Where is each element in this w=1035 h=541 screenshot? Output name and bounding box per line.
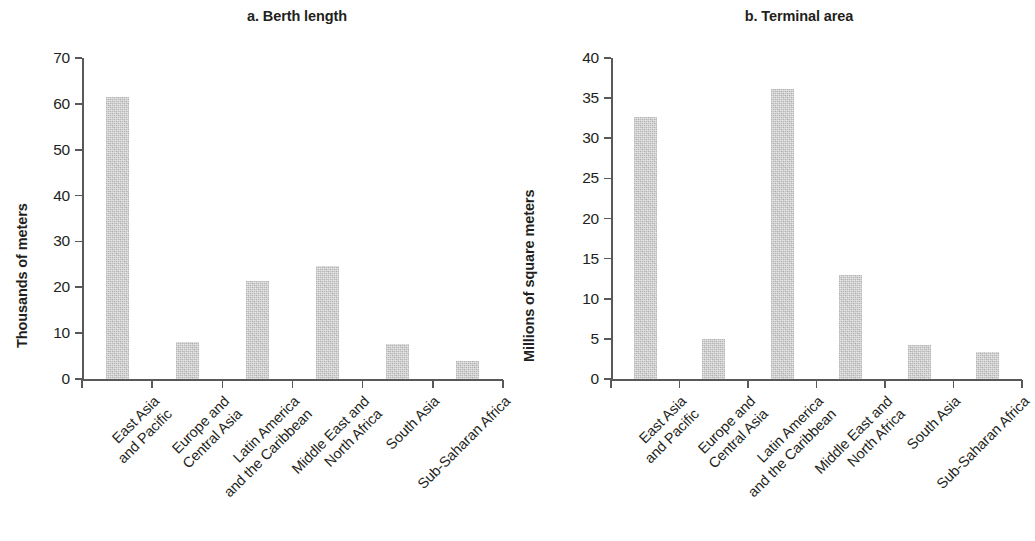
y-axis-tick-label: 5: [549, 330, 599, 348]
panel-a-title: a. Berth length: [0, 8, 554, 24]
bar: [316, 266, 339, 379]
y-axis-tick: [75, 195, 82, 197]
y-axis-tick: [75, 103, 82, 105]
y-axis-tick-label: 30: [20, 232, 70, 250]
y-axis-tick-label: 25: [549, 169, 599, 187]
bar: [976, 352, 999, 379]
y-axis-tick-label: 70: [20, 49, 70, 67]
y-axis-tick: [75, 286, 82, 288]
y-axis-tick: [75, 149, 82, 151]
bar: [771, 89, 794, 380]
y-axis-tick: [75, 57, 82, 59]
x-axis-tick: [151, 380, 153, 388]
y-axis-tick-label: 50: [20, 141, 70, 159]
y-axis-tick-label: 20: [549, 210, 599, 228]
category-label-line1: South Asia: [383, 393, 443, 453]
bar: [908, 345, 931, 379]
y-axis-tick: [604, 178, 611, 180]
y-axis-tick-label: 10: [20, 324, 70, 342]
y-axis-tick: [75, 332, 82, 334]
x-axis-tick: [884, 380, 886, 388]
x-axis-tick: [362, 380, 364, 388]
y-axis-tick-label: 20: [20, 278, 70, 296]
x-axis-tick: [1021, 380, 1023, 388]
x-axis-tick: [502, 380, 504, 388]
x-axis-category-label: South Asia: [383, 393, 444, 454]
bar: [456, 361, 479, 379]
x-axis-tick: [816, 380, 818, 388]
x-axis-tick: [81, 380, 83, 388]
bar: [839, 275, 862, 379]
x-axis-category-label: East Asiaand Pacific: [629, 393, 703, 467]
y-axis-tick-label: 15: [549, 250, 599, 268]
bar: [246, 281, 269, 379]
y-axis-tick-label: 0: [20, 370, 70, 388]
x-axis-tick: [679, 380, 681, 388]
x-axis-tick: [292, 380, 294, 388]
panel-b-plot-area: 0510152025303540East Asiaand PacificEuro…: [611, 58, 1022, 379]
x-axis-category-label: South Asia: [904, 393, 965, 454]
y-axis-tick: [604, 258, 611, 260]
y-axis-tick: [604, 57, 611, 59]
y-axis-tick: [604, 298, 611, 300]
panel-terminal-area: b. Terminal area Millions of square mete…: [514, 0, 1028, 541]
y-axis-tick-label: 35: [549, 89, 599, 107]
y-axis-tick-label: 10: [549, 290, 599, 308]
bar: [634, 117, 657, 379]
y-axis-tick-label: 40: [20, 187, 70, 205]
x-axis-tick: [222, 380, 224, 388]
x-axis-tick: [953, 380, 955, 388]
bar: [386, 344, 409, 379]
y-axis-tick: [604, 97, 611, 99]
panel-b-y-axis-title: Millions of square meters: [521, 190, 537, 362]
bar: [106, 97, 129, 379]
x-axis-category-label: East Asiaand Pacific: [101, 393, 175, 467]
y-axis-tick: [75, 241, 82, 243]
y-axis-tick: [604, 218, 611, 220]
y-axis-line: [82, 58, 84, 380]
y-axis-tick-label: 30: [549, 129, 599, 147]
y-axis-tick-label: 40: [549, 49, 599, 67]
panel-berth-length: a. Berth length Thousands of meters 0102…: [0, 0, 514, 541]
y-axis-line: [611, 58, 613, 380]
y-axis-tick-label: 0: [549, 370, 599, 388]
panel-b-title: b. Terminal area: [514, 8, 1035, 24]
x-axis-tick: [432, 380, 434, 388]
category-label-line1: South Asia: [904, 393, 964, 453]
y-axis-tick: [604, 137, 611, 139]
bar: [702, 339, 725, 379]
y-axis-tick-label: 60: [20, 95, 70, 113]
x-axis-tick: [610, 380, 612, 388]
x-axis-tick: [747, 380, 749, 388]
bar: [176, 342, 199, 379]
y-axis-tick: [604, 338, 611, 340]
panel-a-plot-area: 010203040506070East Asiaand PacificEurop…: [82, 58, 503, 379]
